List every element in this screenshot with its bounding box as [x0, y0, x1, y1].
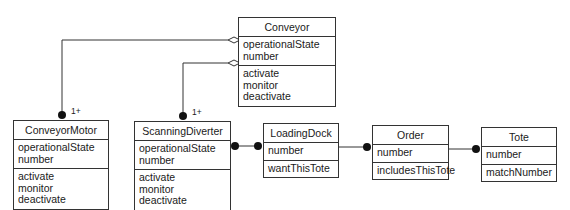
many-dot-icon	[58, 111, 66, 119]
attributes-section: number	[264, 143, 338, 160]
association-loadingdock-order	[338, 143, 371, 151]
attributes-section: number	[482, 147, 556, 164]
many-dot-icon	[363, 143, 371, 151]
operations-section: activate monitor deactivate	[135, 169, 230, 210]
many-dot-icon	[254, 142, 262, 150]
operation: deactivate	[243, 91, 331, 103]
association-scanningdiverter-loadingdock	[231, 142, 262, 150]
attribute: number	[377, 147, 444, 159]
class-tote[interactable]: Tote number matchNumber	[481, 127, 557, 182]
class-name: LoadingDock	[264, 124, 338, 143]
attribute: number	[486, 149, 552, 161]
multiplicity-label: 1+	[71, 106, 81, 116]
attributes-section: number	[373, 145, 448, 162]
operation: matchNumber	[486, 167, 552, 179]
operations-section: matchNumber	[482, 164, 556, 182]
operation: deactivate	[18, 194, 104, 206]
operation: wantThisTote	[268, 163, 334, 175]
attribute: operationalState	[243, 39, 331, 51]
operation: activate	[139, 172, 226, 184]
operations-section: activate monitor deactivate	[239, 65, 335, 106]
aggregation-conveyor-conveyormotor	[58, 37, 240, 119]
attribute: operationalState	[18, 142, 104, 154]
class-name: Tote	[482, 128, 556, 147]
class-loadingdock[interactable]: LoadingDock number wantThisTote	[263, 123, 339, 178]
operation: activate	[18, 171, 104, 183]
operations-section: includesThisTote	[373, 162, 448, 180]
attributes-section: operationalState number	[14, 140, 108, 168]
attribute: number	[18, 154, 104, 166]
many-dot-icon	[472, 145, 480, 153]
attributes-section: operationalState number	[135, 141, 230, 169]
class-conveyor[interactable]: Conveyor operationalState number activat…	[238, 17, 336, 107]
operation: deactivate	[139, 195, 226, 207]
class-order[interactable]: Order number includesThisTote	[372, 125, 449, 180]
operations-section: wantThisTote	[264, 160, 338, 178]
attribute: number	[139, 155, 226, 167]
attributes-section: operationalState number	[239, 37, 335, 65]
association-order-tote	[448, 145, 480, 153]
multiplicity-label: 1+	[192, 107, 202, 117]
attribute: number	[268, 145, 334, 157]
class-scanningdiverter[interactable]: ScanningDiverter operationalState number…	[134, 121, 231, 210]
attribute: number	[243, 51, 331, 63]
operation: includesThisTote	[377, 165, 444, 177]
class-name: ConveyorMotor	[14, 121, 108, 140]
many-dot-icon	[231, 142, 239, 150]
class-conveyormotor[interactable]: ConveyorMotor operationalState number ac…	[13, 120, 109, 210]
operations-section: activate monitor deactivate	[14, 168, 108, 209]
attribute: operationalState	[139, 143, 226, 155]
class-name: Order	[373, 126, 448, 145]
many-dot-icon	[179, 112, 187, 120]
aggregation-conveyor-scanningdiverter	[179, 60, 240, 120]
class-name: Conveyor	[239, 18, 335, 37]
operation: activate	[243, 68, 331, 80]
class-name: ScanningDiverter	[135, 122, 230, 141]
